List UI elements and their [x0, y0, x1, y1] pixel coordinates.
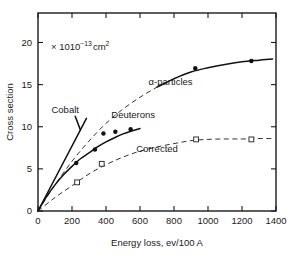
series-labels: α-particlesDeuteronsCorrectedCobalt	[51, 76, 192, 154]
y-axis-ticks	[38, 42, 276, 211]
data-point	[113, 130, 117, 134]
series-label-Cobalt: Cobalt	[51, 104, 79, 115]
data-point	[99, 161, 104, 166]
figure-container: 0200400600800100012001400 05101520 α-par…	[0, 0, 299, 256]
x-tick-label: 1200	[231, 215, 252, 226]
data-point	[75, 180, 80, 185]
x-axis-tick-labels: 0200400600800100012001400	[35, 215, 286, 226]
y-axis-title: Cross section	[4, 83, 15, 141]
x-tick-label: 0	[35, 215, 40, 226]
data-point	[74, 161, 78, 165]
series-label-Deuterons: Deuterons	[111, 109, 155, 120]
y-tick-label: 0	[27, 205, 32, 216]
curve-Cobalt	[38, 118, 86, 211]
x-tick-label: 1400	[265, 215, 286, 226]
data-point	[93, 147, 97, 151]
x-tick-label: 1000	[197, 215, 218, 226]
chart-canvas: 0200400600800100012001400 05101520 α-par…	[0, 0, 299, 256]
x-axis-title: Energy loss, ev/100 A	[111, 237, 204, 248]
data-point	[128, 127, 132, 131]
data-point	[249, 59, 253, 63]
series-label-Corrected: Corrected	[136, 143, 178, 154]
data-point	[101, 131, 105, 135]
cobalt-leader-line	[75, 116, 80, 130]
y-axis-tick-labels: 05101520	[21, 37, 32, 217]
y-unit-annotation: × 1010−13cm2	[51, 40, 110, 52]
x-tick-label: 200	[64, 215, 80, 226]
x-tick-label: 400	[98, 215, 114, 226]
x-tick-label: 800	[166, 215, 182, 226]
y-tick-label: 5	[27, 163, 32, 174]
y-tick-label: 20	[21, 37, 32, 48]
data-point	[193, 66, 197, 70]
y-tick-label: 10	[21, 121, 32, 132]
data-point	[194, 137, 199, 142]
x-tick-label: 600	[132, 215, 148, 226]
y-tick-label: 15	[21, 79, 32, 90]
series-label-α-particles: α-particles	[149, 76, 193, 87]
data-point	[249, 137, 254, 142]
